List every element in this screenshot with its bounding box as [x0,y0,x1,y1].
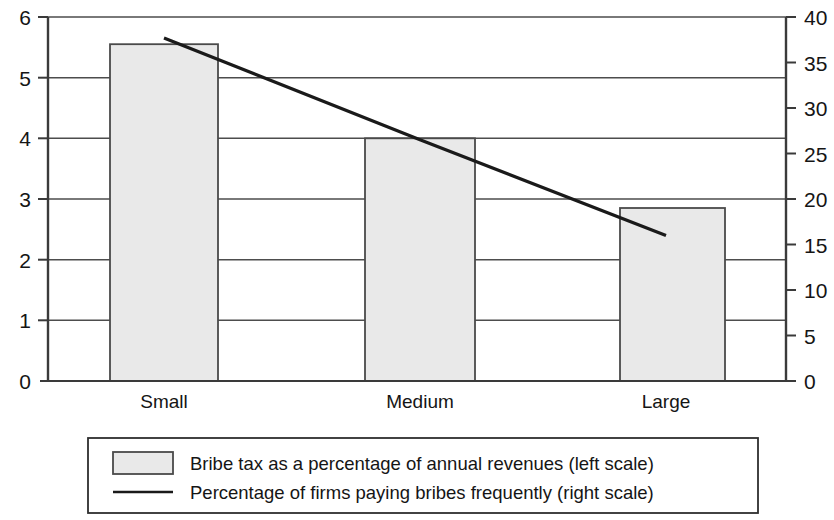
left-axis-tick-labels: 6 5 4 3 2 1 0 [19,6,31,393]
chart-container: 6 5 4 3 2 1 0 40 35 30 25 20 15 [0,0,834,520]
right-tick-label-5: 5 [804,325,816,348]
left-tick-label-0: 0 [19,370,31,393]
left-tick-label-4: 4 [19,127,31,150]
dual-axis-bar-line-chart: 6 5 4 3 2 1 0 40 35 30 25 20 15 [0,0,834,520]
bar-large[interactable] [620,208,725,381]
category-axis-labels: Small Medium Large [140,391,690,412]
right-tick-label-10: 10 [804,279,827,302]
legend-label-bribe-frequency: Percentage of firms paying bribes freque… [190,482,654,503]
right-tick-label-30: 30 [804,97,827,120]
left-tick-label-1: 1 [19,309,31,332]
left-tick-label-6: 6 [19,6,31,29]
left-axis-ticks [38,17,48,320]
right-tick-label-35: 35 [804,52,827,75]
chart-legend: Bribe tax as a percentage of annual reve… [88,438,758,513]
right-tick-label-15: 15 [804,234,827,257]
right-tick-label-20: 20 [804,188,827,211]
left-tick-label-2: 2 [19,249,31,272]
bar-small[interactable] [110,44,218,381]
legend-label-bribe-tax: Bribe tax as a percentage of annual reve… [190,453,654,474]
legend-swatch-icon-bar [113,452,173,474]
right-axis-ticks [786,17,796,381]
right-tick-label-25: 25 [804,143,827,166]
category-label-medium: Medium [386,391,454,412]
left-tick-label-5: 5 [19,67,31,90]
right-axis-tick-labels: 40 35 30 25 20 15 10 5 0 [804,6,827,393]
category-label-large: Large [642,391,691,412]
left-tick-label-3: 3 [19,188,31,211]
right-tick-label-0: 0 [804,370,816,393]
right-tick-label-40: 40 [804,6,827,29]
bar-medium[interactable] [365,138,475,381]
category-label-small: Small [140,391,188,412]
